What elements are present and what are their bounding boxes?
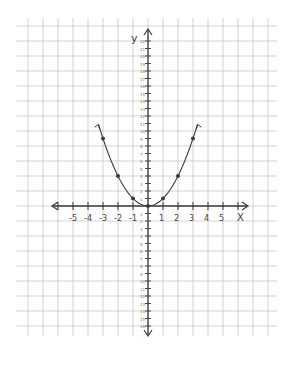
y-tick-label: 18 [140, 69, 146, 74]
data-point [146, 204, 150, 208]
x-tick-label: -4 [84, 214, 92, 223]
y-tick-label: 3 [140, 227, 143, 232]
y-tick-label: 9 [140, 137, 143, 142]
x-tick-label: -1 [129, 214, 137, 223]
y-tick-label: 10 [140, 279, 146, 284]
y-tick-label: 11 [140, 287, 146, 292]
y-tick-label: 15 [140, 317, 146, 322]
y-tick-label: 2 [140, 219, 143, 224]
y-tick-label: 1 [140, 197, 143, 202]
y-tick-label: 15 [140, 92, 146, 97]
y-tick-label: 10 [140, 129, 146, 134]
y-tick-label: 16 [140, 324, 146, 329]
x-tick-label: -3 [99, 214, 107, 223]
y-tick-label: 5 [140, 242, 143, 247]
axes [52, 29, 248, 336]
y-tick-label: 3 [140, 182, 143, 187]
y-tick-label: 14 [140, 99, 146, 104]
y-tick-label: 2 [140, 189, 143, 194]
data-point [176, 174, 180, 178]
y-tick-label: 22 [140, 39, 146, 44]
y-tick-label: 20 [140, 54, 146, 59]
x-tick-label: -5 [69, 214, 77, 223]
y-tick-label: 7 [140, 257, 143, 262]
y-tick-label: 17 [140, 77, 146, 82]
y-tick-label: 14 [140, 309, 146, 314]
y-tick-label: 7 [140, 152, 143, 157]
x-tick-labels: -5-4-3-2-112345 [69, 214, 224, 223]
y-tick-label: 11 [140, 122, 146, 127]
x-tick-label: 3 [189, 214, 194, 223]
y-tick-label: 13 [140, 302, 146, 307]
graph-paper: 1615141312111098765432112345678910111213… [0, 0, 293, 371]
x-tick-label: 5 [219, 214, 224, 223]
y-tick-label: 9 [140, 272, 143, 277]
x-tick-label: 4 [204, 214, 209, 223]
y-tick-label: 8 [140, 144, 143, 149]
y-tick-label: 12 [140, 294, 146, 299]
y-axis-label: y [131, 32, 138, 45]
y-tick-label: 8 [140, 264, 143, 269]
x-tick-label: -2 [114, 214, 122, 223]
data-point [161, 197, 165, 201]
y-tick-label: 13 [140, 107, 146, 112]
y-tick-label: 21 [140, 47, 146, 52]
data-point [191, 137, 195, 141]
y-tick-label: 1 [140, 212, 143, 217]
y-tick-label: 19 [140, 62, 146, 67]
y-tick-label: 12 [140, 114, 146, 119]
x-tick-label: 2 [174, 214, 179, 223]
y-tick-label: 6 [140, 159, 143, 164]
x-tick-label: 1 [159, 214, 164, 223]
y-tick-label: 16 [140, 84, 146, 89]
y-tick-label: 4 [140, 234, 143, 239]
y-tick-label: 6 [140, 249, 143, 254]
data-point [101, 137, 105, 141]
x-axis-label: X [237, 212, 244, 223]
y-tick-label: 4 [140, 174, 143, 179]
data-point [116, 174, 120, 178]
y-tick-label: 5 [140, 167, 143, 172]
data-point [131, 197, 135, 201]
